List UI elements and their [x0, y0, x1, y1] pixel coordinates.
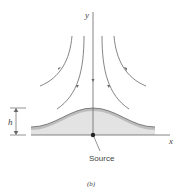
arrow-down-icon	[92, 79, 95, 82]
x-axis-label: x	[168, 136, 173, 146]
height-label: h	[8, 117, 13, 127]
arrow-down-icon	[76, 85, 79, 88]
flow-diagram: x y h Source (b)	[0, 0, 183, 192]
figure-caption: (b)	[87, 180, 96, 188]
source-leader	[94, 137, 100, 151]
streamline-left-outer	[40, 36, 72, 86]
y-axis-label: y	[84, 10, 89, 20]
source-point	[91, 133, 95, 137]
streamline-right-outer	[114, 36, 146, 86]
arrow-down-icon	[107, 85, 110, 88]
source-label: Source	[89, 154, 115, 163]
arrow-down-icon	[58, 67, 61, 70]
flow-arrow-icons	[58, 67, 127, 88]
